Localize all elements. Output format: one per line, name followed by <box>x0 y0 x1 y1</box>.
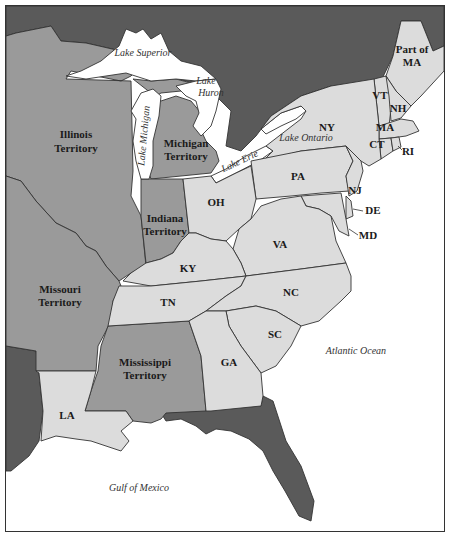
lake-huron-label-2: Huron <box>197 87 224 98</box>
indiana-label-2: Territory <box>143 225 187 237</box>
nj-label: NJ <box>348 184 362 196</box>
md-label: MD <box>359 229 377 241</box>
pa-label: PA <box>291 170 305 182</box>
ct-label: CT <box>369 138 385 150</box>
lake-huron-label-1: Lake <box>195 75 216 86</box>
ga-label: GA <box>221 356 238 368</box>
ri-label: RI <box>402 145 414 157</box>
michigan-label-1: Michigan <box>164 137 209 149</box>
oh-label: OH <box>207 196 225 208</box>
lake-superior-label: Lake Superior <box>114 47 172 58</box>
gulf-label: Gulf of Mexico <box>109 482 169 493</box>
ma-label: MA <box>376 121 394 133</box>
de-label: DE <box>365 204 380 216</box>
illinois-label-2: Territory <box>54 142 98 154</box>
mississippi-label-1: Mississippi <box>119 356 171 368</box>
us-1812-map: Illinois Territory Michigan Territory In… <box>6 6 444 531</box>
illinois-label-1: Illinois <box>60 128 93 140</box>
ky-label: KY <box>180 262 197 274</box>
la-label: LA <box>59 409 74 421</box>
vt-label: VT <box>372 89 388 101</box>
mississippi-label-2: Territory <box>123 369 167 381</box>
missouri-label-1: Missouri <box>39 283 81 295</box>
nh-label: NH <box>390 102 407 114</box>
va-label: VA <box>273 238 288 250</box>
missouri-label-2: Territory <box>38 296 82 308</box>
map-frame: Illinois Territory Michigan Territory In… <box>5 5 445 532</box>
maine-label-2: MA <box>403 56 421 68</box>
michigan-label-2: Territory <box>164 150 208 162</box>
lake-ontario-label: Lake Ontario <box>278 132 333 143</box>
indiana-label-1: Indiana <box>147 212 184 224</box>
maine-label-1: Part of <box>396 43 429 55</box>
atlantic-label: Atlantic Ocean <box>325 345 386 356</box>
sc-label: SC <box>268 328 282 340</box>
tn-label: TN <box>160 296 175 308</box>
nc-label: NC <box>283 286 299 298</box>
